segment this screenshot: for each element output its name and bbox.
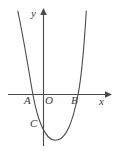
parabola-curve	[18, 11, 87, 140]
point-label-a: A	[24, 95, 31, 106]
point-label-c: C	[30, 118, 37, 129]
parabola-path	[18, 11, 87, 140]
x-axis-arrow-icon	[105, 91, 112, 98]
parabola-figure: y x A O B C	[0, 0, 117, 151]
point-label-b: B	[71, 95, 78, 106]
graph-canvas	[0, 0, 117, 151]
y-axis-arrow-icon	[40, 8, 47, 15]
x-axis-label: x	[99, 96, 104, 107]
origin-label: O	[45, 95, 53, 106]
y-axis-label: y	[31, 8, 36, 19]
